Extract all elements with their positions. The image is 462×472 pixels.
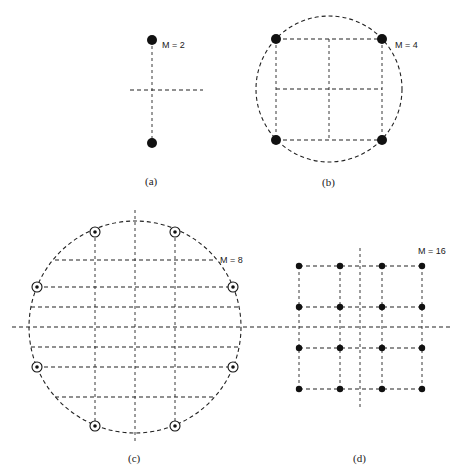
caption-a: (a) — [145, 175, 158, 188]
signal-point — [32, 362, 42, 372]
panel-b: M = 4 (b) — [256, 16, 418, 189]
caption-b: (b) — [322, 176, 335, 189]
label-m8: M = 8 — [220, 255, 243, 265]
signal-point — [147, 35, 157, 45]
modulation-constellation-diagrams: M = 2 (a) M = 4 (b) — [0, 0, 462, 472]
caption-c: (c) — [128, 452, 141, 465]
signal-point — [377, 135, 387, 145]
label-m4: M = 4 — [395, 40, 418, 50]
panel-c: M = 8 (c) — [12, 210, 450, 465]
signal-point — [90, 421, 100, 431]
signal-point — [228, 362, 238, 372]
signal-point — [147, 138, 157, 148]
panel-a: M = 2 (a) — [130, 35, 203, 188]
signal-point — [271, 135, 281, 145]
signal-point — [170, 421, 180, 431]
panel-d: M = 16 (d) — [296, 246, 446, 465]
signal-point — [271, 34, 281, 44]
signal-point — [377, 34, 387, 44]
label-m2: M = 2 — [162, 40, 185, 50]
signal-point — [90, 227, 100, 237]
label-m16: M = 16 — [418, 246, 446, 256]
signal-point — [32, 282, 42, 292]
signal-point — [170, 227, 180, 237]
caption-d: (d) — [353, 452, 366, 465]
signal-point — [228, 282, 238, 292]
